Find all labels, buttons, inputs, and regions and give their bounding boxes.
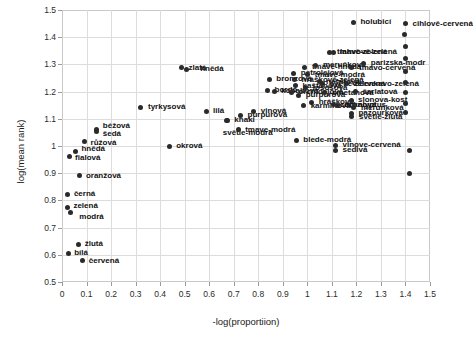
data-point: [73, 149, 78, 154]
x-axis-tick: [209, 282, 210, 286]
data-point: [403, 69, 408, 74]
x-axis-tick: [258, 282, 259, 286]
y-axis-tick-label: 0.6: [24, 250, 56, 260]
x-axis-tick: [136, 282, 137, 286]
data-point-label: lilá: [213, 106, 224, 115]
data-point: [68, 210, 73, 215]
x-axis-tick: [430, 282, 431, 286]
x-axis-tick-label: 1.4: [400, 289, 412, 299]
x-axis-tick-label: 1.1: [326, 289, 338, 299]
data-point: [272, 89, 277, 94]
y-axis-tick-label: 0.9: [24, 168, 56, 178]
data-point-label: šedá: [103, 129, 121, 138]
data-point: [291, 71, 296, 76]
data-point-label: bílá: [74, 248, 88, 257]
x-axis-tick-label: 0: [60, 289, 65, 299]
data-point-label: hnědá: [200, 64, 224, 73]
data-point: [167, 144, 172, 149]
x-axis-tick-label: 0.9: [277, 289, 289, 299]
data-point-label: oranžová: [86, 171, 121, 180]
data-point: [289, 90, 294, 95]
x-axis-tick: [381, 282, 382, 286]
data-point-label: holubicí: [360, 17, 391, 26]
data-point: [238, 113, 243, 118]
x-axis-tick-label: 0.8: [252, 289, 264, 299]
x-axis-tick: [405, 282, 406, 286]
data-point: [82, 139, 87, 144]
x-axis-tick-label: 0.3: [130, 289, 142, 299]
y-axis-tick: [58, 37, 62, 38]
y-axis-tick: [58, 92, 62, 93]
data-point-label: červená: [89, 256, 119, 265]
data-point-label: sedivá: [343, 145, 368, 154]
x-axis-tick-label: 0.1: [81, 289, 93, 299]
data-point: [204, 109, 209, 114]
x-axis-tick-label: 0.7: [228, 289, 240, 299]
data-point-label: vinová: [261, 106, 286, 115]
x-axis-tick-label: 0.5: [179, 289, 191, 299]
x-axis-tick-label: 0.2: [105, 289, 117, 299]
data-point: [333, 143, 338, 148]
x-axis-tick-label: 1.3: [375, 289, 387, 299]
y-axis-tick: [58, 146, 62, 147]
y-axis-tick: [58, 255, 62, 256]
y-axis-tick-label: 0.5: [24, 277, 56, 287]
data-point-label: šarlatová: [362, 87, 397, 96]
x-axis-tick: [307, 282, 308, 286]
data-point: [335, 103, 340, 108]
x-axis-tick: [185, 282, 186, 286]
y-axis-tick: [58, 200, 62, 201]
y-axis-tick-label: 0.7: [24, 223, 56, 233]
data-point-label: cihlově-cervená: [412, 19, 472, 28]
y-axis-title: log(mean rank): [15, 92, 26, 212]
x-axis-tick-label: 1.5: [424, 289, 436, 299]
data-point-label: béžová: [103, 121, 130, 130]
x-axis-title: -log(proportiion): [62, 316, 430, 327]
data-point-label: parizska-modr: [371, 58, 426, 67]
data-point: [407, 171, 412, 176]
data-point-label: zelená: [73, 201, 97, 210]
data-point: [67, 154, 72, 159]
x-axis-tick: [87, 282, 88, 286]
y-axis-tick-label: 1.3: [24, 59, 56, 69]
data-point-label: světle-žlutá: [359, 112, 403, 121]
data-point-label: žlutá: [85, 239, 103, 248]
y-axis-tick-label: 1.1: [24, 114, 56, 124]
data-point: [361, 61, 366, 66]
data-point-label: tmave-modrá: [245, 125, 295, 134]
y-axis-tick: [58, 119, 62, 120]
x-axis-tick-label: 1: [305, 289, 310, 299]
y-axis-tick-label: 1.2: [24, 87, 56, 97]
x-axis-tick: [160, 282, 161, 286]
data-point-label: růžová: [91, 138, 117, 147]
data-point-label: lahvově-zelená: [340, 47, 397, 56]
data-point: [66, 251, 71, 256]
x-axis-tick: [356, 282, 357, 286]
data-point: [265, 88, 270, 93]
data-point-label: černá: [74, 189, 95, 198]
y-axis-tick: [58, 228, 62, 229]
data-point: [65, 205, 70, 210]
x-axis-tick-label: 0.4: [154, 289, 166, 299]
data-point: [184, 67, 189, 72]
x-axis-tick-label: 0.6: [203, 289, 215, 299]
y-axis-tick: [58, 64, 62, 65]
x-axis-tick: [62, 282, 63, 286]
y-gridline: [62, 37, 430, 38]
x-axis-tick: [111, 282, 112, 286]
data-point: [294, 138, 299, 143]
data-point: [267, 77, 272, 82]
data-point-label: okrová: [176, 141, 202, 150]
y-axis-tick: [58, 282, 62, 283]
data-point: [236, 127, 241, 132]
data-point: [407, 148, 412, 153]
data-point: [353, 89, 358, 94]
data-point: [351, 20, 356, 25]
x-axis-tick: [283, 282, 284, 286]
data-point-label: modrá: [79, 212, 103, 221]
data-point-label: fialová: [75, 153, 100, 162]
y-gridline: [62, 200, 430, 201]
y-axis-tick-label: 1.4: [24, 32, 56, 42]
data-point-label: tyrkysová: [148, 102, 185, 111]
